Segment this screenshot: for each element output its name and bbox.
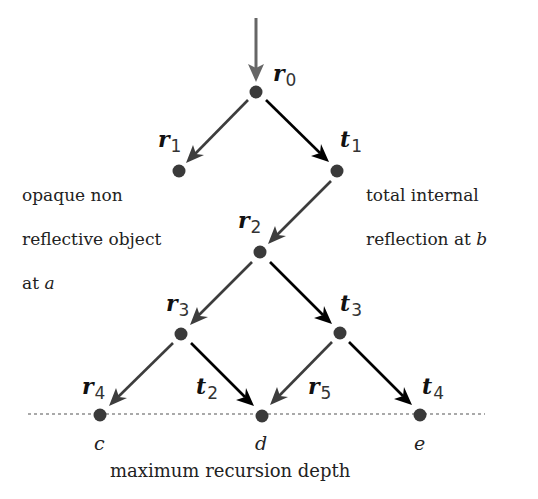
point-label-e: e bbox=[414, 432, 425, 454]
label-r4: r4 bbox=[82, 373, 105, 403]
label-t2: t2 bbox=[196, 373, 218, 403]
max-depth-label: maximum recursion depth bbox=[110, 460, 350, 481]
edge-r0-t1 bbox=[266, 100, 329, 162]
edge-t1-r2 bbox=[268, 181, 331, 244]
annotation-opaque-object: opaque non reflective object at a bbox=[22, 162, 161, 316]
edge-r2-t3 bbox=[270, 262, 332, 324]
edge-r0-r1 bbox=[186, 100, 248, 163]
label-t1: t1 bbox=[340, 126, 362, 156]
label-r3: r3 bbox=[166, 290, 189, 320]
node-r2 bbox=[254, 246, 267, 259]
label-r5: r5 bbox=[308, 373, 331, 403]
annotation-total-internal-reflection: total internal reflection at b bbox=[366, 162, 487, 272]
edge-r3-c bbox=[109, 343, 173, 406]
node-c bbox=[94, 409, 107, 422]
incoming-ray-arrow bbox=[248, 18, 264, 82]
edge-t3-e bbox=[349, 342, 412, 405]
node-e bbox=[414, 409, 427, 422]
node-r3 bbox=[175, 328, 188, 341]
node-r0 bbox=[250, 86, 263, 99]
label-r2: r2 bbox=[238, 207, 261, 237]
label-t4: t4 bbox=[422, 373, 444, 403]
label-t3: t3 bbox=[340, 290, 362, 320]
point-label-d: d bbox=[255, 432, 267, 454]
node-t3 bbox=[334, 327, 347, 340]
point-label-c: c bbox=[94, 432, 105, 454]
node-r1 bbox=[173, 165, 186, 178]
node-t1 bbox=[331, 165, 344, 178]
node-d bbox=[256, 410, 269, 423]
label-r1: r1 bbox=[158, 126, 181, 156]
edge-r2-r3 bbox=[190, 262, 252, 325]
label-r0: r0 bbox=[273, 60, 296, 90]
